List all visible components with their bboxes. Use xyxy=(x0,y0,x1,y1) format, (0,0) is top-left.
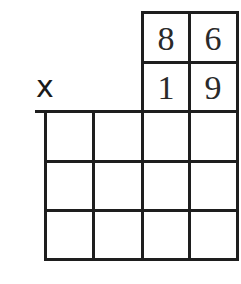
multiplier-tens-digit: 1 xyxy=(143,71,189,105)
multiplier-ones-digit: 9 xyxy=(190,71,236,105)
answer-cell-r1-c4[interactable] xyxy=(191,113,237,160)
answer-cell-r1-c2[interactable] xyxy=(95,113,141,160)
answer-cell-r1-c3[interactable] xyxy=(144,113,190,160)
answer-cell-r2-c4[interactable] xyxy=(191,163,237,210)
answer-cell-r3-c2[interactable] xyxy=(95,212,141,259)
answer-cell-r1-c1[interactable] xyxy=(47,113,93,160)
answer-cell-r2-c1[interactable] xyxy=(47,163,93,210)
multiply-sign: x xyxy=(36,72,54,102)
answer-cell-r2-c3[interactable] xyxy=(144,163,190,210)
answer-cell-r3-c1[interactable] xyxy=(47,212,93,259)
multiplicand-ones-digit: 6 xyxy=(190,22,236,56)
answer-cell-r3-c3[interactable] xyxy=(144,212,190,259)
multiplicand-tens-digit: 8 xyxy=(143,22,189,56)
answer-cell-r3-c4[interactable] xyxy=(191,212,237,259)
answer-cell-r2-c2[interactable] xyxy=(95,163,141,210)
